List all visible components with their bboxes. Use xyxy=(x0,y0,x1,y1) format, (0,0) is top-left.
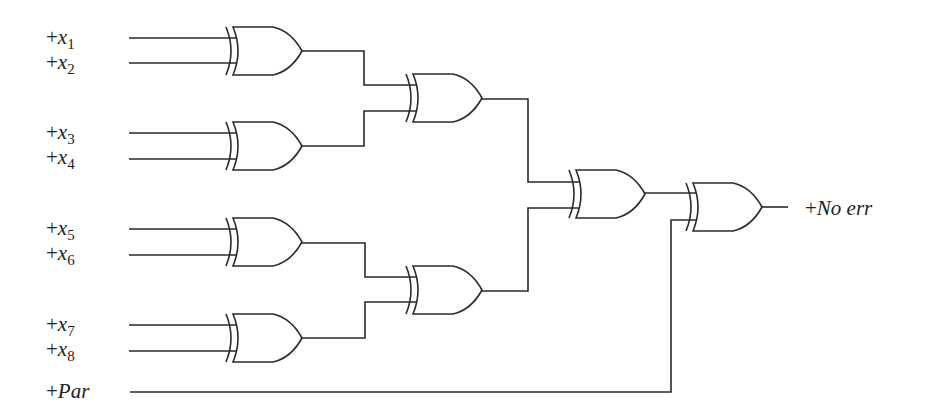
label-x8: +x8 xyxy=(46,337,75,364)
xor-gate-5 xyxy=(406,74,482,122)
input-labels: +x1 +x2 +x3 +x4 +x5 +x6 +x7 +x8 +Par xyxy=(46,25,90,403)
par-wire xyxy=(130,220,696,392)
xor-gate-4 xyxy=(226,314,302,362)
xor-gate-6 xyxy=(406,266,482,314)
label-x7: +x7 xyxy=(46,312,75,339)
label-x6: +x6 xyxy=(46,241,75,268)
label-no-err: +No err xyxy=(805,196,873,220)
xor-gate-2 xyxy=(226,122,302,170)
label-x2: +x2 xyxy=(46,50,75,77)
label-x1: +x1 xyxy=(46,25,75,52)
xor-gate-8 xyxy=(686,183,762,231)
xor-gate-7 xyxy=(569,170,645,218)
label-par: +Par xyxy=(46,379,90,403)
xor-gate-3 xyxy=(226,218,302,266)
parity-checker-diagram: +x1 +x2 +x3 +x4 +x5 +x6 +x7 +x8 +Par +No… xyxy=(0,0,928,418)
xor-gate-1 xyxy=(226,27,302,75)
label-x4: +x4 xyxy=(46,145,75,172)
label-x3: +x3 xyxy=(46,120,75,147)
label-x5: +x5 xyxy=(46,216,75,243)
